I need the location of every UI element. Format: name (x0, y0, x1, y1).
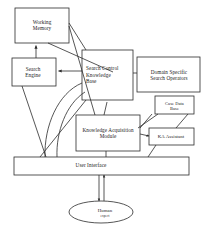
node-shape-human (69, 201, 133, 223)
edge-knowledge-acquisition-module-to-search-control-kb (104, 102, 107, 115)
node-box-domain-specific-search-operators (137, 57, 200, 92)
edge-domain-specific-to-ka-module (140, 114, 152, 128)
node-box-search-engine (12, 58, 56, 86)
edge-ka-assistant-to-user-interface (148, 145, 156, 157)
node-box-user-interface (14, 157, 189, 175)
edge-case-data-base-to-ka-assistant (176, 114, 188, 128)
edge-search-control-kb-to-user-interface (40, 100, 86, 157)
node-box-case-data-base (155, 96, 194, 114)
edge-search-engine-to-user-interface (22, 86, 46, 157)
edge-working-memory-to-search-control-kb (48, 43, 113, 72)
edge-knowledge-acquisition-module-to-ka-assistant (140, 134, 149, 136)
node-box-working-memory (15, 8, 69, 43)
edge-search-control-kb-curve-secondary (57, 92, 85, 157)
edge-case-data-base-to-knowledge-acquisition-module (138, 114, 158, 128)
edge-working-memory-to-knowledge-acquisition-module (69, 26, 95, 115)
edge-working-memory-to-search-control-kb-upper (69, 23, 86, 50)
node-box-search-control-knowledge-base (82, 50, 133, 100)
node-box-ka-assistant (149, 128, 194, 145)
diagram-vector-layer (0, 0, 202, 235)
diagram-canvas: Working Memory Search Engine Search Cont… (0, 0, 202, 235)
node-box-knowledge-acquisition-module (76, 115, 140, 151)
